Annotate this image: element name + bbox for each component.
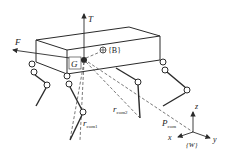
leg-segment: [70, 115, 82, 140]
body-edge: [36, 62, 67, 74]
robot-diagram: T F G {B}: [0, 0, 232, 156]
r-com2-label: rcom2: [113, 104, 128, 115]
leg-segment: [167, 72, 186, 88]
leg-front-left: [29, 61, 50, 106]
leg-segment: [116, 68, 136, 80]
x-axis-label: x: [167, 133, 172, 142]
robot-body: [36, 27, 160, 74]
body-top-face: [36, 27, 160, 50]
joint-icon: [66, 81, 72, 87]
joint-icon: [29, 61, 35, 67]
joint-icon: [184, 87, 190, 93]
force-label: F: [14, 37, 21, 47]
joint-icon: [135, 79, 141, 85]
z-axis-label: z: [194, 102, 199, 111]
body-frame-link: [86, 52, 100, 58]
leg-segment: [163, 93, 185, 106]
com-label: G: [71, 59, 78, 69]
force-vector: F: [13, 37, 84, 60]
thrust-label: T: [88, 14, 94, 24]
body-frame-label: {B}: [108, 46, 121, 55]
joint-icon: [31, 69, 37, 75]
joint-icon: [160, 59, 166, 65]
p-com-label: Pcom: [161, 118, 176, 129]
leg-segment: [138, 85, 140, 118]
joint-icon: [44, 82, 50, 88]
y-axis-label: y: [212, 135, 217, 144]
diagram-svg: T F G {B}: [0, 0, 232, 156]
x-axis-arrow: [178, 132, 193, 137]
leg-segment: [36, 88, 46, 106]
leg-front-right: [160, 59, 190, 106]
thrust-vector: T: [84, 14, 94, 60]
joint-icon: [64, 73, 70, 79]
world-frame-label: {W}: [186, 141, 198, 149]
r-com1-label: rcom1: [83, 118, 98, 129]
y-axis-arrow: [193, 132, 210, 138]
joint-icon: [80, 109, 86, 115]
